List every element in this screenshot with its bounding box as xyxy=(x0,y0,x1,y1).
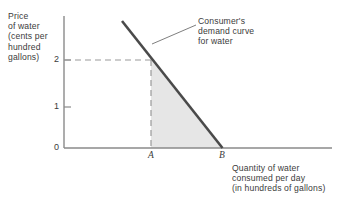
x-axis-caption: Quantity of water consumed per day (in h… xyxy=(232,163,325,194)
y-tick-label-2: 2 xyxy=(45,54,59,64)
demand-curve-annotation: Consumer's demand curve for water xyxy=(198,16,254,47)
annotation-leader-line xyxy=(152,25,196,44)
y-tick-label-0: 0 xyxy=(45,142,59,152)
y-tick-label-1: 1 xyxy=(45,101,59,111)
x-point-label-a: A xyxy=(144,150,158,160)
y-axis-caption: Price of water (cents per hundred gallon… xyxy=(8,11,48,62)
demand-curve-figure: Price of water (cents per hundred gallon… xyxy=(0,0,339,206)
x-point-label-b: B xyxy=(215,150,229,160)
